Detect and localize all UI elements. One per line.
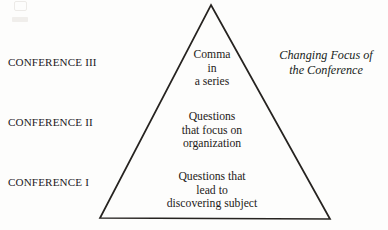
pyramid-figure: CONFERENCE III CONFERENCE II CONFERENCE … (0, 0, 388, 230)
tier-bottom-line-1: Questions that (136, 170, 288, 184)
conference-label-2: CONFERENCE II (8, 116, 93, 128)
tier-top-line-1: Comma (161, 48, 263, 62)
tier-middle-text: Questions that focus on organization (148, 110, 276, 151)
conference-label-3: CONFERENCE III (8, 56, 97, 68)
figure-caption: Changing Focus of the Conference (264, 48, 388, 77)
caption-line-2: the Conference (264, 63, 388, 78)
tier-top-text: Comma in a series (161, 48, 263, 89)
tier-bottom-line-2: lead to (136, 184, 288, 198)
tier-top-line-2: in (161, 62, 263, 76)
tier-bottom-line-3: discovering subject (136, 197, 288, 211)
tier-bottom-text: Questions that lead to discovering subje… (136, 170, 288, 211)
tier-top-line-3: a series (161, 75, 263, 89)
caption-line-1: Changing Focus of (264, 48, 388, 63)
tier-middle-line-2: that focus on (148, 124, 276, 138)
tier-middle-line-3: organization (148, 137, 276, 151)
tier-middle-line-1: Questions (148, 110, 276, 124)
conference-label-1: CONFERENCE I (8, 176, 89, 188)
